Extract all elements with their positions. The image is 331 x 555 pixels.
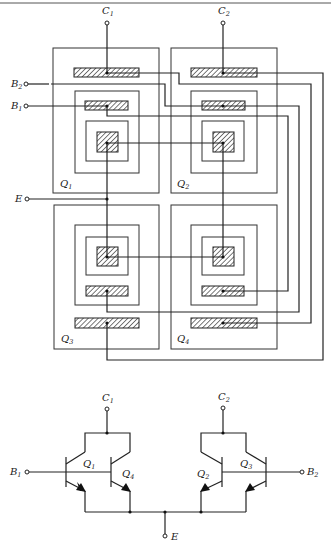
q1-layout-label: Q1 <box>60 178 72 191</box>
b1-label: B1 <box>10 100 23 113</box>
q1-schematic-label: Q1 <box>83 458 95 471</box>
transistor-q2-symbol <box>200 452 222 512</box>
c2-schematic-terminal <box>221 406 225 410</box>
c2-label: C2 <box>218 5 230 18</box>
transistor-q2-layout: Q2 <box>171 48 277 193</box>
e-label: E <box>14 193 23 204</box>
c1-schematic-label: C1 <box>102 392 114 405</box>
b1-schematic-terminal <box>25 470 29 474</box>
b1-schematic-label: B1 <box>9 466 22 479</box>
transistor-q4-symbol <box>111 452 131 512</box>
q4-schematic-label: Q4 <box>122 468 134 481</box>
b2-terminal <box>24 82 28 86</box>
b2-net-layout <box>28 84 299 312</box>
transistor-q1-layout: Q1 <box>53 48 159 193</box>
c1-label: C1 <box>102 5 114 18</box>
q2-layout-label: Q2 <box>177 178 189 191</box>
q3-layout-label: Q3 <box>61 333 73 346</box>
b1-terminal <box>24 104 28 108</box>
c2-terminal <box>221 21 225 25</box>
c2-schematic-label: C2 <box>218 391 230 404</box>
c1-terminal <box>105 21 109 25</box>
circuit-diagram: Q1 Q2 Q3 <box>0 0 331 555</box>
e-schematic-label: E <box>170 531 179 542</box>
schematic-view: C1 C2 B1 B2 E Q1 Q4 Q2 Q3 <box>9 391 319 542</box>
c1-schematic-terminal <box>105 407 109 411</box>
b2-schematic-terminal <box>300 470 304 474</box>
e-terminal <box>25 197 29 201</box>
q4-layout-label: Q4 <box>177 333 189 346</box>
transistor-q4-layout: Q4 <box>171 205 277 349</box>
q2-schematic-label: Q2 <box>197 468 209 481</box>
q3-schematic-label: Q3 <box>240 458 252 471</box>
b2-label: B2 <box>10 78 23 91</box>
layout-view: Q1 Q2 Q3 <box>10 5 323 360</box>
e-schematic-terminal <box>163 534 167 538</box>
b2-schematic-label: B2 <box>306 466 319 479</box>
e-net-layout <box>29 141 225 258</box>
